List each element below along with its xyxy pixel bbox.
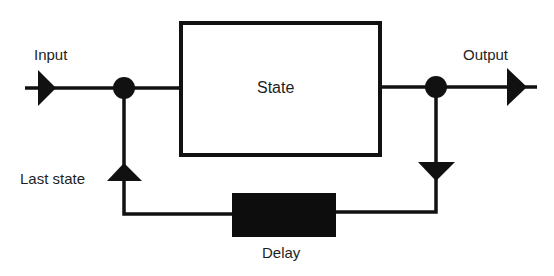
delay-label: Delay bbox=[262, 245, 300, 260]
diagram-graphics bbox=[0, 0, 554, 276]
output-arrow-icon bbox=[507, 68, 527, 106]
output-label: Output bbox=[463, 47, 508, 62]
input-label: Input bbox=[34, 47, 67, 62]
last-state-up-arrow-icon bbox=[107, 163, 142, 181]
delay-block bbox=[232, 193, 336, 237]
input-arrow-icon bbox=[38, 70, 56, 106]
last-state-label: Last state bbox=[20, 171, 85, 186]
state-delay-feedback-diagram: Input Output State Last state Delay bbox=[0, 0, 554, 276]
feedback-down-arrow-icon bbox=[418, 162, 455, 181]
state-label: State bbox=[257, 80, 294, 96]
